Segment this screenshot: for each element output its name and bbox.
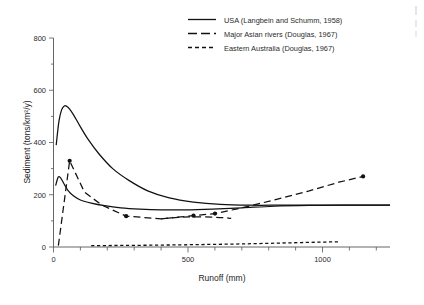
legend-label-eastern-australia: Eastern Australia (Douglas, 1967) bbox=[224, 44, 335, 53]
y-tick-label-400: 400 bbox=[33, 138, 46, 147]
legend-label-usa: USA (Langbein and Schumm, 1958) bbox=[224, 16, 342, 25]
y-tick-label-800: 800 bbox=[33, 34, 46, 43]
data-point-marker bbox=[124, 214, 128, 218]
y-axis-title: Sediment (tons/km²/y) bbox=[22, 100, 32, 183]
series-line-usa bbox=[56, 106, 390, 206]
y-axis-ticks bbox=[49, 38, 54, 247]
scan-edge-artifact bbox=[415, 6, 417, 37]
y-tick-label-0: 0 bbox=[42, 243, 46, 252]
data-point-marker bbox=[361, 174, 365, 178]
chart-figure: USA (Langbein and Schumm, 1958) Major As… bbox=[0, 0, 424, 305]
x-tick-label-1000: 1000 bbox=[314, 255, 331, 264]
x-tick-label-500: 500 bbox=[182, 255, 195, 264]
legend-label-asian-rivers: Major Asian rivers (Douglas, 1967) bbox=[224, 30, 337, 39]
x-tick-label-0: 0 bbox=[51, 255, 55, 264]
data-point-marker bbox=[191, 214, 195, 218]
y-tick-label-200: 200 bbox=[33, 191, 46, 200]
y-tick-label-600: 600 bbox=[33, 86, 46, 95]
series-line-eastern-australia bbox=[91, 242, 339, 246]
x-axis-title: Runoff (mm) bbox=[198, 273, 245, 283]
sediment-runoff-chart: USA (Langbein and Schumm, 1958) Major As… bbox=[0, 0, 424, 305]
x-axis-ticks bbox=[54, 247, 377, 253]
data-point-marker bbox=[68, 159, 72, 163]
plot-series bbox=[56, 106, 390, 246]
x-axis: 0 500 1000 Runoff (mm) bbox=[51, 247, 390, 283]
y-axis: 800 600 400 200 0 Sediment (tons/km²/y) bbox=[22, 34, 54, 252]
legend: USA (Langbein and Schumm, 1958) Major As… bbox=[188, 16, 342, 53]
data-point-marker bbox=[213, 211, 217, 215]
